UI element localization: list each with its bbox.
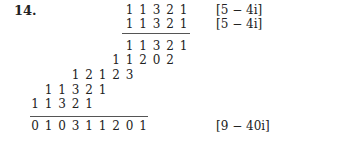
digit: 2	[165, 17, 175, 31]
digit: 1	[44, 97, 54, 111]
bottom-rule	[30, 116, 148, 117]
digit: 2	[165, 53, 175, 67]
digit: 1	[138, 3, 148, 17]
digit: 2	[111, 68, 121, 82]
digit: 3	[71, 83, 81, 97]
digit: 1	[71, 68, 81, 82]
digit: 3	[125, 68, 135, 82]
digit: 2	[84, 83, 94, 97]
annotation-product: [9 − 40i]	[216, 119, 270, 133]
digit: 1	[98, 83, 108, 97]
annotation-multiplier: [5 − 4i]	[216, 17, 262, 31]
digit: 1	[179, 3, 189, 17]
digit: 1	[84, 97, 94, 111]
digit: 1	[111, 53, 121, 67]
digit: 0	[30, 119, 40, 133]
digit: 1	[138, 17, 148, 31]
digit: 1	[179, 17, 189, 31]
digit: 1	[84, 119, 94, 133]
digit: 3	[152, 3, 162, 17]
digit: 1	[125, 39, 135, 53]
digit: 2	[138, 53, 148, 67]
digit: 1	[125, 53, 135, 67]
digit: 1	[179, 39, 189, 53]
digit: 3	[57, 97, 67, 111]
digit: 3	[152, 39, 162, 53]
digit: 1	[30, 97, 40, 111]
digit: 2	[165, 3, 175, 17]
digit: 3	[152, 17, 162, 31]
digit: 2	[84, 68, 94, 82]
digit: 1	[44, 83, 54, 97]
annotation-multiplicand: [5 − 4i]	[216, 3, 262, 17]
digit: 0	[125, 119, 135, 133]
digit: 2	[111, 119, 121, 133]
digit: 2	[71, 97, 81, 111]
digit: 1	[138, 119, 148, 133]
digit: 1	[98, 68, 108, 82]
digit: 2	[165, 39, 175, 53]
digit: 1	[125, 3, 135, 17]
digit: 1	[44, 119, 54, 133]
digit: 1	[125, 17, 135, 31]
digit: 0	[152, 53, 162, 67]
top-rule	[122, 33, 190, 34]
digit: 1	[98, 119, 108, 133]
digit: 3	[71, 119, 81, 133]
digit: 0	[57, 119, 67, 133]
digit: 1	[57, 83, 67, 97]
digit: 1	[138, 39, 148, 53]
problem-number: 14.	[14, 3, 37, 18]
